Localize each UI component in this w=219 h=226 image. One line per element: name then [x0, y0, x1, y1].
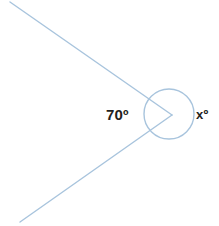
lower-ray	[20, 115, 172, 222]
interior-angle-label: 70º	[106, 107, 129, 122]
reflex-angle-label: xº	[196, 108, 208, 121]
geometry-figure: 70º xº	[0, 0, 219, 226]
reflex-angle-circle	[144, 89, 194, 139]
upper-ray	[10, 2, 172, 115]
angle-rays	[10, 2, 172, 222]
